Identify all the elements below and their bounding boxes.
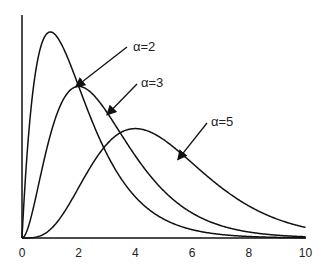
x-tick-label: 2 [75, 246, 82, 260]
annotation-label: α=3 [141, 75, 163, 90]
x-tick-label: 4 [132, 246, 139, 260]
annotation-arrow [76, 47, 127, 87]
curve-alpha-2 [22, 32, 306, 238]
x-tick-label: 0 [19, 246, 26, 260]
axes [22, 15, 306, 238]
gamma-density-chart: 0246810 α=2α=3α=5 [0, 0, 326, 270]
curve-alpha-3 [22, 86, 306, 238]
curve-alpha-5 [22, 129, 306, 238]
curves [22, 32, 306, 238]
annotation-label: α=5 [211, 114, 233, 129]
x-tick-label: 10 [299, 246, 313, 260]
x-tick-label: 8 [245, 246, 252, 260]
annotations: α=2α=3α=5 [76, 39, 233, 160]
x-tick-label: 6 [189, 246, 196, 260]
x-tick-labels: 0246810 [19, 246, 313, 260]
annotation-label: α=2 [133, 39, 155, 54]
annotation-arrow [178, 123, 207, 160]
annotation-arrow [107, 84, 137, 115]
